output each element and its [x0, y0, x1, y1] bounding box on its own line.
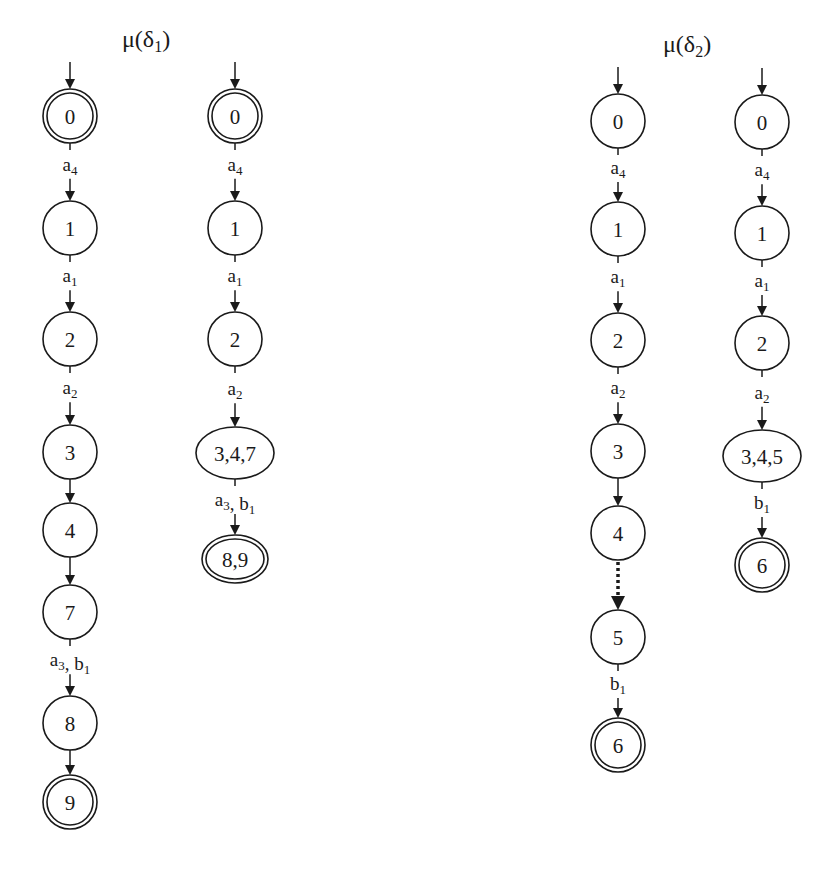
- state-347: 3,4,7: [196, 427, 274, 479]
- state-label: 3: [65, 441, 76, 465]
- arrowhead: [230, 525, 240, 535]
- state-2: 2: [591, 313, 645, 367]
- transition-4-7: [65, 557, 75, 585]
- arrowhead: [757, 306, 767, 316]
- state-label: 0: [65, 105, 76, 129]
- transition-label: a1: [755, 270, 770, 294]
- arrowhead: [65, 686, 75, 696]
- transition-7-8: a3, b1: [50, 639, 90, 696]
- transition-label: a3, b1: [215, 489, 255, 517]
- transition-label: a4: [228, 154, 243, 178]
- transition-label: a2: [63, 377, 78, 401]
- transition-1-2: a1: [611, 256, 626, 313]
- arrowhead: [65, 302, 75, 312]
- state-label: 3: [613, 440, 624, 464]
- state-345: 3,4,5: [723, 430, 801, 482]
- transition-0-1: a4: [228, 143, 243, 201]
- state-label: 0: [230, 105, 241, 129]
- arrowhead: [613, 708, 623, 718]
- state-label: 9: [65, 791, 76, 815]
- group-title: μ(δ1): [122, 26, 170, 55]
- transition-label: a1: [228, 265, 243, 289]
- state-3: 3: [591, 424, 645, 478]
- group-title: μ(δ2): [663, 31, 711, 60]
- transition-label: a2: [755, 382, 770, 406]
- transition-1-2: a1: [755, 260, 770, 316]
- state-label: 2: [757, 332, 768, 356]
- state-0: 0: [591, 94, 645, 148]
- state-0: 0: [735, 95, 789, 149]
- state-6: 6: [591, 718, 645, 772]
- state-9: 9: [43, 775, 97, 829]
- state-0: 0: [208, 89, 262, 143]
- state-label: 6: [613, 734, 624, 758]
- arrowhead: [65, 493, 75, 503]
- transition-4-5: [611, 562, 625, 610]
- state-label: 3,4,5: [741, 445, 783, 469]
- state-label: 1: [230, 217, 241, 241]
- arrowhead: [757, 420, 767, 430]
- state-label: 3,4,7: [214, 442, 256, 466]
- state-label: 6: [757, 554, 768, 578]
- arrowhead: [230, 417, 240, 427]
- arrowhead: [613, 303, 623, 313]
- transition-3-4: [613, 478, 623, 506]
- transition-8-9: [65, 750, 75, 775]
- transition-label: b1: [610, 673, 626, 697]
- state-label: 2: [230, 328, 241, 352]
- transition-2-3: a2: [63, 366, 78, 425]
- transition-5-6: b1: [610, 664, 626, 718]
- transition-1-2: a1: [63, 255, 78, 312]
- state-8: 8: [43, 696, 97, 750]
- state-label: 1: [757, 222, 768, 246]
- state-3: 3: [43, 425, 97, 479]
- state-6: 6: [735, 538, 789, 592]
- transition-1-2: a1: [228, 255, 243, 312]
- state-4: 4: [591, 506, 645, 560]
- arrowhead: [230, 191, 240, 201]
- transition-2-347: a2: [228, 366, 243, 427]
- state-label: 8,9: [222, 548, 248, 572]
- state-label: 2: [613, 329, 624, 353]
- diagram-canvas: μ(δ1)μ(δ2) a4a1a2a3, b1a4a1a2a3, b1a4a1a…: [0, 0, 837, 870]
- state-label: 0: [613, 110, 624, 134]
- state-0: 0: [43, 89, 97, 143]
- transition-label: b1: [754, 492, 770, 516]
- transition-0-1: a4: [63, 143, 78, 201]
- state-5: 5: [591, 610, 645, 664]
- arrowhead: [230, 302, 240, 312]
- state-label: 7: [65, 601, 76, 625]
- state-1: 1: [735, 206, 789, 260]
- transition-0-1: a4: [755, 149, 770, 206]
- state-label: 2: [65, 328, 76, 352]
- state-label: 1: [65, 217, 76, 241]
- transition-label: a4: [755, 159, 770, 183]
- state-1: 1: [208, 201, 262, 255]
- group-titles: μ(δ1)μ(δ2): [122, 26, 711, 60]
- transition-label: a1: [611, 266, 626, 290]
- arrowhead: [757, 528, 767, 538]
- state-label: 0: [757, 111, 768, 135]
- state-label: 1: [613, 218, 624, 242]
- state-2: 2: [208, 312, 262, 366]
- transition-3-4: [65, 479, 75, 503]
- transition-label: a2: [611, 377, 626, 401]
- states-layer: 012347890123,4,78,901234560123,4,56: [43, 89, 801, 829]
- transition-label: a4: [611, 157, 626, 181]
- transitions-layer: a4a1a2a3, b1a4a1a2a3, b1a4a1a2b1a4a1a2b1: [50, 62, 770, 775]
- arrowhead: [65, 765, 75, 775]
- state-label: 5: [613, 626, 624, 650]
- transition-label: a1: [63, 265, 78, 289]
- state-4: 4: [43, 503, 97, 557]
- state-7: 7: [43, 585, 97, 639]
- arrowhead: [757, 85, 767, 95]
- arrowhead: [613, 414, 623, 424]
- arrowhead: [65, 191, 75, 201]
- transition-label: a3, b1: [50, 649, 90, 677]
- state-1: 1: [591, 202, 645, 256]
- state-label: 4: [65, 519, 76, 543]
- arrowhead: [230, 79, 240, 89]
- transition-0-1: a4: [611, 148, 626, 202]
- state-1: 1: [43, 201, 97, 255]
- arrowhead: [611, 596, 625, 610]
